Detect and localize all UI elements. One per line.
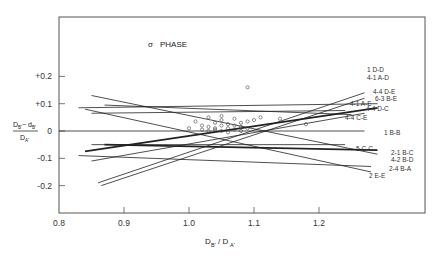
series-line xyxy=(79,156,372,167)
series-line xyxy=(92,113,365,161)
series-label: 2-1 B-C xyxy=(391,149,414,156)
data-point xyxy=(200,124,203,127)
data-point xyxy=(246,120,249,123)
x-tick-label: 0.9 xyxy=(118,218,130,228)
data-point xyxy=(226,123,229,126)
svg-text:/ D: / D xyxy=(218,237,228,246)
x-tick-label: 1.2 xyxy=(313,218,325,228)
data-point xyxy=(194,120,197,123)
data-point xyxy=(220,114,223,117)
plot-frame xyxy=(59,17,425,213)
data-point xyxy=(304,123,307,126)
series-line xyxy=(85,109,371,172)
chart-title-sigma: σ xyxy=(148,40,153,49)
data-point xyxy=(239,121,242,124)
data-point xyxy=(213,121,216,124)
x-tick-label: 0.8 xyxy=(53,218,65,228)
svg-text:A': A' xyxy=(230,242,235,248)
x-tick-label: 1.0 xyxy=(183,218,195,228)
series-label: 4-4 D-E xyxy=(373,88,396,95)
data-point xyxy=(207,125,210,128)
svg-text:B': B' xyxy=(211,242,216,248)
data-point xyxy=(259,116,262,119)
y-tick-label: +0.1 xyxy=(35,99,52,109)
svg-text:B': B' xyxy=(32,125,36,130)
series-label: 4-1 A-D xyxy=(367,74,389,81)
data-point xyxy=(233,117,236,120)
y-tick-label: -0.1 xyxy=(37,153,52,163)
y-axis-label: D B' − d B' D A' xyxy=(13,121,38,143)
line-labels: 1 D-D4-1 A-D4-4 D-E6-3 B-E4-1 A-E4-4 D-C… xyxy=(345,66,414,179)
series-label: 4-4 C-E xyxy=(345,114,368,121)
data-point xyxy=(220,118,223,121)
series-label: 2-4 B-A xyxy=(389,165,412,172)
data-point xyxy=(246,86,249,89)
series-label: 4-4 D-C xyxy=(366,105,389,112)
series-label: 5 C-C xyxy=(356,145,373,152)
series-label: 2 E-E xyxy=(369,172,386,179)
series-label: 1 B-B xyxy=(384,129,400,136)
data-lines xyxy=(59,93,378,186)
chart-title: PHASE xyxy=(160,40,187,49)
x-axis-label: D B' / D A' xyxy=(205,237,235,248)
data-point xyxy=(187,127,190,130)
data-point xyxy=(233,124,236,127)
y-tick-label: -0.2 xyxy=(37,181,52,191)
series-label: 6-3 B-E xyxy=(375,95,398,102)
data-point xyxy=(252,118,255,121)
x-tick-label: 1.1 xyxy=(248,218,260,228)
svg-text:A': A' xyxy=(25,138,29,143)
y-tick-label: 0 xyxy=(47,126,52,136)
series-label: 1 D-D xyxy=(367,66,384,73)
series-label: 4-2 B-D xyxy=(391,156,414,163)
svg-text:− d: − d xyxy=(22,121,32,128)
data-point xyxy=(220,124,223,127)
data-point xyxy=(207,116,210,119)
data-point xyxy=(278,117,281,120)
axis-ticks: 0.80.91.01.11.2+0.2+0.10-0.1-0.2 xyxy=(35,71,325,228)
chart: 0.80.91.01.11.2+0.2+0.10-0.1-0.2 1 D-D4-… xyxy=(0,0,437,258)
y-tick-label: +0.2 xyxy=(35,71,52,81)
